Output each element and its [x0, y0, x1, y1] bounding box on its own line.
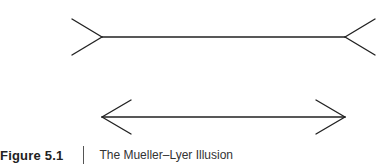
caption-divider: [83, 146, 84, 164]
fins-out-line: [72, 19, 375, 55]
mueller-lyer-diagram: [0, 0, 383, 146]
figure-title: The Mueller–Lyer Illusion: [99, 148, 233, 162]
figure-caption: Figure 5.1 The Mueller–Lyer Illusion: [0, 146, 233, 164]
figure-label: Figure 5.1: [0, 148, 63, 163]
arrows-in-line: [102, 100, 345, 134]
